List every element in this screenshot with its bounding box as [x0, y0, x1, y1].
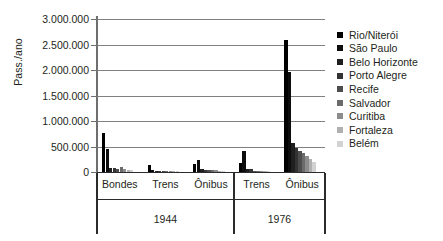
legend-swatch-icon	[337, 100, 343, 106]
group-separator	[324, 199, 326, 234]
legend-item: Rio/Niterói	[337, 28, 418, 42]
year-label: 1976	[268, 213, 291, 225]
legend-item: Belo Horizonte	[337, 55, 418, 69]
legend-label: Rio/Niterói	[349, 30, 398, 41]
year-label: 1944	[154, 213, 177, 225]
category-label: Trens	[152, 178, 178, 190]
y-axis-tick-label: 2.500.000	[17, 39, 89, 51]
y-axis-tick-label: 500.000	[17, 141, 89, 153]
category-label: Ônibus	[286, 178, 319, 190]
group-separator	[233, 173, 235, 199]
legend-label: Belo Horizonte	[349, 57, 418, 68]
year-axis-band: 19441976	[97, 199, 325, 234]
legend-swatch-icon	[337, 45, 343, 51]
gridline	[97, 19, 325, 20]
plot-area	[97, 19, 325, 172]
legend-label: Belém	[349, 138, 379, 149]
y-axis-tick-label: 1.000.000	[17, 115, 89, 127]
legend-label: Porto Alegre	[349, 70, 407, 81]
bar	[312, 162, 315, 172]
group-separator	[324, 173, 326, 199]
legend-swatch-icon	[337, 32, 343, 38]
bar	[176, 171, 179, 172]
legend-label: Curitiba	[349, 111, 385, 122]
chart-container: Pass./ano 3.000.0002.500.0002.000.0001.5…	[0, 0, 443, 241]
legend-item: São Paulo	[337, 42, 418, 56]
category-axis-band: BondesTrensÔnibusTrensÔnibus	[97, 173, 325, 200]
category-label: Trens	[243, 178, 269, 190]
legend-label: Recife	[349, 84, 379, 95]
group-separator	[233, 199, 235, 234]
y-axis-tick-label: 1.500.000	[17, 90, 89, 102]
legend-item: Belém	[337, 137, 418, 151]
legend-swatch-icon	[337, 86, 343, 92]
legend-item: Recife	[337, 82, 418, 96]
category-label: Bondes	[102, 178, 138, 190]
group-separator	[96, 199, 98, 234]
legend-item: Porto Alegre	[337, 69, 418, 83]
y-axis-tick-label: 2.000.000	[17, 64, 89, 76]
legend-label: Salvador	[349, 98, 390, 109]
legend-item: Salvador	[337, 96, 418, 110]
legend-swatch-icon	[337, 141, 343, 147]
group-separator	[96, 173, 98, 199]
legend-label: Fortaleza	[349, 125, 393, 136]
legend-item: Curitiba	[337, 110, 418, 124]
chart-legend: Rio/NiteróiSão PauloBelo HorizontePorto …	[337, 28, 418, 150]
legend-swatch-icon	[337, 59, 343, 65]
y-axis-tick-label: 3.000.000	[17, 13, 89, 25]
bar	[130, 170, 133, 172]
bar	[221, 171, 224, 172]
gridline	[97, 45, 325, 46]
legend-swatch-icon	[337, 73, 343, 79]
legend-swatch-icon	[337, 113, 343, 119]
category-label: Ônibus	[194, 178, 227, 190]
y-axis-tick-label: 0	[17, 166, 89, 178]
bar	[267, 171, 270, 172]
legend-swatch-icon	[337, 127, 343, 133]
legend-label: São Paulo	[349, 43, 397, 54]
legend-item: Fortaleza	[337, 123, 418, 137]
